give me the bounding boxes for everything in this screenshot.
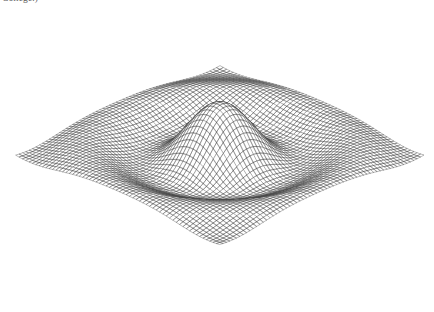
surface-plot-canvas: [0, 0, 434, 312]
surface-wireframe-svg: [0, 0, 434, 312]
figure-page: College.): [0, 0, 434, 312]
